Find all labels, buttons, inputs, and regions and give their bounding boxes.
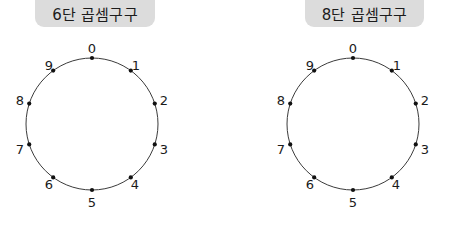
tick-label-4: 4	[392, 177, 400, 192]
tick-dot-2	[153, 102, 157, 106]
multiplication-circles-worksheet: 6단 곱셈구구 0123456789 8단 곱셈구구 0123456789	[0, 0, 460, 229]
circle-outline	[26, 58, 158, 190]
number-circle-6: 0123456789	[26, 58, 158, 190]
tick-dot-2	[414, 102, 418, 106]
tick-dot-3	[414, 142, 418, 146]
panel-title-pill-6: 6단 곱셈구구	[35, 0, 155, 27]
tick-label-5: 5	[349, 195, 357, 210]
tick-label-9: 9	[45, 58, 53, 73]
tick-dot-0	[351, 56, 355, 60]
number-circle-svg-8: 0123456789	[287, 58, 419, 190]
tick-dot-7	[27, 142, 31, 146]
number-circle-8: 0123456789	[287, 58, 419, 190]
number-circle-svg-6: 0123456789	[26, 58, 158, 190]
tick-dot-3	[153, 142, 157, 146]
panel-8-times-table: 8단 곱셈구구 0123456789	[230, 0, 460, 229]
tick-label-2: 2	[160, 93, 168, 108]
tick-dot-5	[351, 188, 355, 192]
tick-label-0: 0	[88, 41, 96, 56]
tick-label-8: 8	[277, 93, 285, 108]
tick-label-5: 5	[88, 195, 96, 210]
tick-label-4: 4	[131, 177, 139, 192]
tick-label-1: 1	[393, 58, 401, 73]
tick-dot-0	[90, 56, 94, 60]
circle-outline	[287, 58, 419, 190]
tick-dot-8	[288, 102, 292, 106]
panel-title-label-8: 8단 곱셈구구	[322, 3, 408, 24]
panel-title-pill-8: 8단 곱셈구구	[305, 0, 424, 27]
tick-label-7: 7	[277, 142, 285, 157]
tick-label-3: 3	[421, 142, 429, 157]
panel-title-label-6: 6단 곱셈구구	[52, 3, 138, 24]
tick-dot-7	[288, 142, 292, 146]
tick-label-6: 6	[306, 177, 314, 192]
tick-label-8: 8	[16, 93, 24, 108]
tick-label-1: 1	[132, 58, 140, 73]
tick-label-0: 0	[349, 41, 357, 56]
tick-label-9: 9	[306, 58, 314, 73]
tick-dot-5	[90, 188, 94, 192]
tick-label-6: 6	[45, 177, 53, 192]
tick-label-2: 2	[421, 93, 429, 108]
tick-label-3: 3	[160, 142, 168, 157]
tick-label-7: 7	[16, 142, 24, 157]
panel-6-times-table: 6단 곱셈구구 0123456789	[0, 0, 230, 229]
tick-dot-8	[27, 102, 31, 106]
